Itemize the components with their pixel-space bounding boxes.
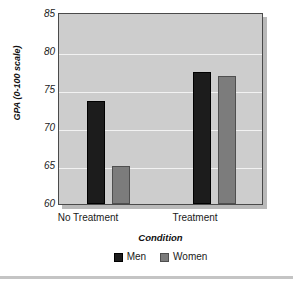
bar-women-treatment <box>218 76 236 204</box>
y-tick-label: 65 <box>15 161 55 171</box>
x-axis-label: Condition <box>58 232 263 243</box>
chart-legend: Men Women <box>58 252 263 262</box>
y-axis-label: GPA (0-100 scale) <box>12 28 22 138</box>
bar-chart-figure: 85 80 75 70 65 60 GPA (0-100 scale) No T… <box>0 0 293 287</box>
legend-swatch-icon <box>114 253 123 262</box>
y-tick-label: 85 <box>15 9 55 19</box>
bar-women-no-treatment <box>112 166 130 204</box>
legend-swatch-icon <box>160 253 169 262</box>
bar-men-treatment <box>193 72 211 204</box>
gridline-80 <box>59 54 262 55</box>
footer-divider <box>0 276 293 279</box>
bar-men-no-treatment <box>87 101 105 204</box>
legend-label-women: Women <box>173 252 207 262</box>
y-tick-label: 60 <box>15 199 55 209</box>
plot-area <box>58 13 263 205</box>
legend-entry-men: Men <box>114 252 146 262</box>
x-tick-label-treatment: Treatment <box>155 212 235 223</box>
legend-label-men: Men <box>127 252 146 262</box>
legend-entry-women: Women <box>160 252 207 262</box>
x-tick-label-no-treatment: No Treatment <box>48 212 128 223</box>
